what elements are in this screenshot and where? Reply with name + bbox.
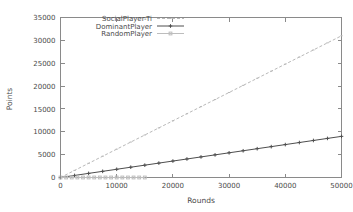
x-axis-label: Rounds — [187, 196, 215, 205]
y-tick-label: 35000 — [33, 14, 55, 22]
legend-label-socialplayer-ti: SocialPlayer-Ti — [102, 15, 152, 23]
x-axis-ticks: 01000020000300004000050000 — [58, 18, 352, 190]
legend-label-randomplayer: RandomPlayer — [101, 30, 152, 38]
series-randomplayer — [59, 176, 146, 179]
x-tick-label: 10000 — [106, 182, 128, 190]
x-tick-label: 30000 — [218, 182, 240, 190]
y-tick-label: 10000 — [33, 128, 55, 136]
legend-sample-lines — [157, 19, 184, 35]
y-tick-label: 20000 — [33, 83, 55, 91]
x-tick-label: 40000 — [274, 182, 296, 190]
y-axis-ticks: 05000100001500020000250003000035000 — [33, 14, 341, 182]
chart-legend: SocialPlayer-Ti DominantPlayer RandomPla… — [96, 15, 184, 38]
series-layer — [59, 36, 344, 180]
x-tick-label: 0 — [58, 182, 62, 190]
y-axis-label: Points — [5, 88, 14, 111]
y-tick-label: 5000 — [38, 151, 56, 159]
chart-svg: 05000100001500020000250003000035000 0100… — [0, 0, 353, 212]
y-tick-label: 0 — [51, 174, 55, 182]
y-tick-label: 25000 — [33, 60, 55, 68]
plot-frame — [61, 18, 342, 178]
y-tick-label: 15000 — [33, 106, 55, 114]
x-tick-label: 20000 — [162, 182, 184, 190]
x-tick-label: 50000 — [330, 182, 352, 190]
chart-figure: 05000100001500020000250003000035000 0100… — [0, 0, 353, 212]
y-tick-label: 30000 — [33, 37, 55, 45]
